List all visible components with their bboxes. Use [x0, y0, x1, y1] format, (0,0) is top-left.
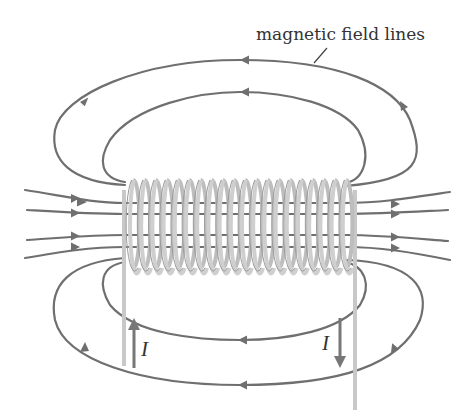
coil-turn-back	[223, 180, 229, 268]
coil-turn-back	[212, 180, 218, 268]
coil-turn-back	[201, 180, 207, 268]
coil-turn-back	[178, 180, 184, 268]
solenoid-diagram: magnetic field lines	[0, 0, 465, 419]
coil-turn-back	[313, 180, 319, 268]
coil-turn-back	[324, 180, 330, 268]
coil-turn-back	[257, 180, 263, 268]
outer-bottom-field-line	[54, 258, 423, 390]
coil-turn-back	[346, 180, 352, 268]
coil-turn-back	[156, 180, 162, 268]
current-label-right: I	[321, 331, 330, 355]
coil-turn-back	[279, 180, 285, 268]
field-lines-label: magnetic field lines	[256, 24, 425, 44]
coil-turn-back	[234, 180, 240, 268]
current-label-left: I	[140, 337, 149, 361]
coil-turn-back	[145, 180, 151, 268]
coil-turn-back	[290, 180, 296, 268]
outer-top-field-line	[54, 56, 417, 187]
coil-turn-back	[190, 180, 196, 268]
coil-turn-back	[335, 180, 341, 268]
coil-turn-back	[268, 180, 274, 268]
coil-turn-back	[246, 180, 252, 268]
inner-top-field-line	[103, 88, 365, 184]
coil-turn-back	[302, 180, 308, 268]
current-arrow-right	[334, 318, 346, 368]
label-leader-line	[314, 48, 327, 63]
coil-turn-back	[134, 180, 140, 268]
coil-turn-back	[167, 180, 173, 268]
